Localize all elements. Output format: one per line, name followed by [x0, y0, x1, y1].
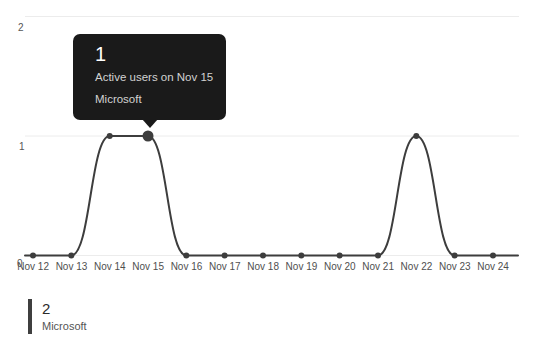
- tooltip-description: Active users on Nov 15: [95, 71, 226, 84]
- legend-color-bar: [28, 299, 32, 334]
- data-point-nov-18[interactable]: [260, 253, 266, 259]
- legend-item-microsoft[interactable]: 2 Microsoft: [28, 299, 87, 334]
- tooltip-series-label: Microsoft: [95, 93, 226, 106]
- data-point-nov-13[interactable]: [68, 253, 74, 259]
- x-axis-label: Nov 20: [321, 261, 359, 273]
- data-point-nov-12[interactable]: [30, 253, 36, 259]
- x-axis-label: Nov 16: [167, 261, 205, 273]
- x-axis-label: Nov 13: [52, 261, 90, 273]
- y-axis-tick-2: 2: [18, 22, 24, 33]
- x-axis-label: Nov 21: [359, 261, 397, 273]
- legend-label: Microsoft: [42, 320, 87, 333]
- x-axis-label: Nov 18: [244, 261, 282, 273]
- tooltip-arrow: [142, 119, 158, 128]
- series-line-microsoft: [25, 136, 518, 256]
- data-point-nov-20[interactable]: [337, 253, 343, 259]
- x-axis-label: Nov 17: [206, 261, 244, 273]
- data-point-nov-23[interactable]: [452, 253, 458, 259]
- y-axis-tick-1: 1: [19, 141, 25, 152]
- data-point-nov-17[interactable]: [222, 253, 228, 259]
- chart-tooltip: 1 Active users on Nov 15 Microsoft: [73, 34, 226, 120]
- data-point-nov-22[interactable]: [413, 133, 419, 139]
- data-point-nov-16[interactable]: [183, 253, 189, 259]
- tooltip-value: 1: [95, 43, 226, 65]
- x-axis-label: Nov 24: [474, 261, 512, 273]
- x-axis: Nov 12 Nov 13 Nov 14 Nov 15 Nov 16 Nov 1…: [14, 261, 513, 273]
- data-point-nov-19[interactable]: [298, 253, 304, 259]
- data-point-nov-24[interactable]: [490, 253, 496, 259]
- x-axis-label: Nov 12: [14, 261, 52, 273]
- active-users-chart: 2 1 0 Nov 12 Nov 13 Nov 14 Nov 15 Nov 16…: [0, 0, 543, 344]
- x-axis-label: Nov 22: [397, 261, 435, 273]
- x-axis-label: Nov 14: [91, 261, 129, 273]
- data-point-nov-14[interactable]: [107, 133, 113, 139]
- data-point-highlighted-nov-15[interactable]: [143, 131, 154, 142]
- x-axis-label: Nov 23: [436, 261, 474, 273]
- x-axis-label: Nov 19: [282, 261, 320, 273]
- data-point-nov-21[interactable]: [375, 253, 381, 259]
- legend-value: 2: [42, 300, 87, 318]
- x-axis-label: Nov 15: [129, 261, 167, 273]
